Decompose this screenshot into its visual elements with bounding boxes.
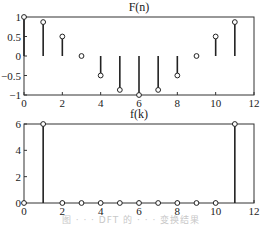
stem-marker — [79, 54, 84, 59]
y-tick-label: 2 — [16, 171, 22, 183]
y-tick-label: 4 — [16, 144, 22, 156]
x-tick-label: 4 — [98, 97, 104, 109]
y-tick-label: 1 — [16, 11, 22, 23]
y-tick-label: −0.5 — [1, 70, 21, 82]
stem-marker — [117, 88, 122, 93]
figure-caption: 图 · · · DFT 的 · · · 变换结果 — [0, 213, 262, 226]
stem-marker — [22, 15, 27, 20]
stem-marker — [175, 73, 180, 78]
plot-title: f(k) — [130, 107, 148, 121]
stem-marker — [156, 88, 161, 93]
plot-title: F(n) — [129, 0, 150, 14]
x-tick-label: 10 — [210, 97, 222, 109]
stem-marker — [232, 20, 237, 25]
figure: F(n)02468101210.50−0.5−1 f(k)02468101264… — [0, 0, 262, 229]
stem-marker — [213, 201, 218, 206]
plot-F-n: F(n)02468101210.50−0.5−1 — [1, 0, 259, 109]
x-tick-label: 0 — [21, 97, 27, 109]
x-tick-label: 2 — [60, 97, 66, 109]
stem-marker — [41, 122, 46, 127]
stem-marker — [79, 201, 84, 206]
y-tick-label: 6 — [16, 118, 22, 130]
x-tick-label: 12 — [249, 97, 260, 109]
stem-marker — [137, 201, 142, 206]
stem-marker — [98, 73, 103, 78]
stem-marker — [232, 122, 237, 127]
stem-marker — [137, 93, 142, 98]
stem-marker — [60, 34, 65, 39]
axes-frame — [24, 124, 254, 203]
stem-marker — [22, 201, 27, 206]
stem-marker — [98, 201, 103, 206]
stem-marker — [194, 201, 199, 206]
y-tick-label: 0.5 — [7, 31, 21, 43]
stem-marker — [117, 201, 122, 206]
plot-f-k: f(k)0246810126420 — [16, 107, 260, 217]
y-tick-label: 0 — [16, 50, 22, 62]
y-tick-label: −1 — [9, 89, 21, 101]
stem-marker — [156, 201, 161, 206]
stem-marker — [41, 20, 46, 25]
stem-marker — [194, 54, 199, 59]
stem-marker — [60, 201, 65, 206]
y-tick-label: 0 — [16, 197, 22, 209]
stem-marker — [175, 201, 180, 206]
x-tick-label: 8 — [175, 97, 181, 109]
stem-marker — [213, 34, 218, 39]
